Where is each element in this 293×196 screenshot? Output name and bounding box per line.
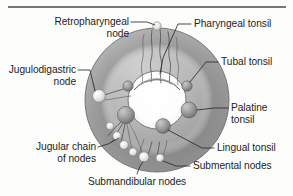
label-jugular-chain-line1: Jugular chain [36, 141, 96, 152]
waldeyer-ring-figure: Retropharyngeal node Pharyngeal tonsil T… [0, 0, 293, 196]
jugular-chain-node-3 [120, 141, 129, 150]
label-palatine-tonsil-line2: tonsil [231, 114, 254, 125]
label-pharyngeal-tonsil: Pharyngeal tonsil [194, 18, 271, 29]
label-palatine-tonsil-line1: Palatine [231, 102, 268, 113]
palatine-tonsil-left [117, 106, 134, 123]
label-palatine-tonsil: Palatine tonsil [231, 102, 268, 125]
label-jugulodigastric-node-line2: node [54, 76, 77, 87]
tubal-tonsil-right [182, 81, 192, 91]
label-jugular-chain-line2: of nodes [57, 153, 96, 164]
waldeyer-ring-torus [85, 28, 229, 172]
label-jugulodigastric-node-line1: Jugulodigastric [9, 64, 76, 75]
palatine-tonsil-right [181, 102, 197, 118]
jugulodigastric-node [93, 90, 106, 103]
submandibular-node-1 [139, 152, 149, 162]
label-submental-nodes: Submental nodes [193, 160, 272, 171]
label-retropharyngeal-node: Retropharyngeal node [54, 16, 129, 39]
jugular-chain-node-4 [129, 148, 137, 156]
label-tubal-tonsil: Tubal tonsil [221, 56, 272, 67]
retropharyngeal-node [153, 22, 161, 30]
label-submandibular-nodes: Submandibular nodes [88, 176, 186, 187]
lingual-tonsil [156, 119, 171, 134]
label-jugular-chain-of-nodes: Jugular chain of nodes [36, 141, 96, 164]
leader-retropharyngeal-node [131, 22, 155, 25]
label-lingual-tonsil: Lingual tonsil [217, 142, 276, 153]
tubal-tonsil-left [123, 81, 133, 91]
figure-page: Retropharyngeal node Pharyngeal tonsil T… [0, 0, 293, 196]
label-retropharyngeal-node-line1: Retropharyngeal [54, 16, 129, 27]
label-retropharyngeal-node-line2: node [107, 28, 130, 39]
jugular-chain-node-1 [106, 122, 114, 130]
label-jugulodigastric-node: Jugulodigastric node [9, 64, 77, 87]
